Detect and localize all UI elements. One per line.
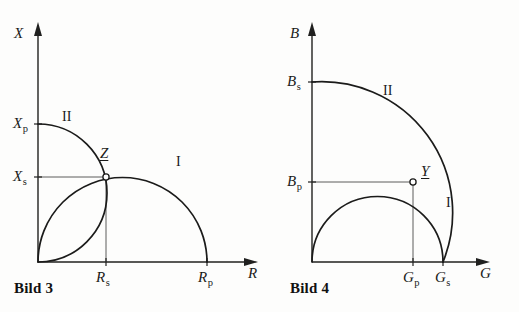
bild3-ytick-label-xp-base: X: [13, 115, 22, 131]
bild3-ytick-label-xs-base: X: [13, 168, 22, 184]
bild4-xtick-label-gp: Gp: [403, 270, 419, 285]
bild3-node-Z-label: Z: [100, 146, 108, 161]
bild4-y-axis-arrowhead: [308, 22, 316, 36]
bild4-xtick-label-gs-sub: s: [446, 277, 450, 288]
bild4-ytick-label-bp-sub: p: [297, 181, 302, 192]
bild4-ytick-label-bp: Bp: [287, 174, 301, 189]
figure-sheet: X R Xp Xs Rs Rp II I Z Bild 3: [0, 0, 519, 312]
bild3-ytick-label-xs-sub: s: [23, 176, 27, 187]
figure-bild4: B G Bs Bp Gp Gs II I Y Bild 4: [268, 0, 519, 312]
bild4-caption: Bild 4: [290, 280, 329, 297]
bild3-xtick-label-rp: Rp: [198, 270, 212, 285]
bild3-ytick-label-xp: Xp: [13, 116, 27, 131]
bild4-ytick-label-bs-sub: s: [297, 81, 301, 92]
bild3-y-axis-arrowhead: [34, 22, 42, 36]
bild4-ytick-label-bs-base: B: [287, 73, 296, 89]
bild4-node-Y-marker: [410, 179, 416, 185]
bild4-ytick-label-bs: Bs: [287, 74, 300, 89]
bild3-ytick-label-xp-sub: p: [23, 123, 28, 134]
bild4-curve-II: [312, 82, 453, 262]
bild3-y-axis-label: X: [14, 26, 23, 41]
bild3-xtick-label-rs-sub: s: [106, 277, 110, 288]
bild4-x-axis-label: G: [480, 266, 491, 281]
bild4-ytick-label-bp-base: B: [287, 173, 296, 189]
bild3-node-Z-marker: [103, 174, 109, 180]
bild3-caption: Bild 3: [14, 280, 53, 297]
bild3-curve-I: [38, 178, 207, 263]
bild4-node-Y-label: Y: [421, 164, 429, 179]
bild4-curve-label-II: II: [383, 84, 392, 98]
bild4-y-axis-label: B: [290, 26, 299, 41]
bild3-xtick-label-rp-sub: p: [208, 277, 213, 288]
bild3-xtick-label-rs: Rs: [96, 270, 109, 285]
bild4-curve-label-I: I: [446, 196, 451, 210]
bild4-xtick-label-gs-base: G: [435, 269, 446, 285]
bild3-xtick-label-rs-base: R: [96, 269, 105, 285]
bild3-ytick-label-xs: Xs: [13, 169, 26, 184]
bild4-xtick-label-gp-sub: p: [414, 277, 419, 288]
bild4-xtick-label-gs: Gs: [435, 270, 450, 285]
bild3-curve-label-I: I: [176, 155, 181, 169]
bild3-x-axis-label: R: [248, 266, 257, 281]
bild4-xtick-label-gp-base: G: [403, 269, 414, 285]
figure-bild3: X R Xp Xs Rs Rp II I Z Bild 3: [0, 0, 268, 312]
bild4-curve-I: [312, 197, 443, 263]
bild3-xtick-label-rp-base: R: [198, 269, 207, 285]
bild3-curve-label-II: II: [62, 110, 71, 124]
bild3-drawing: [0, 0, 268, 312]
